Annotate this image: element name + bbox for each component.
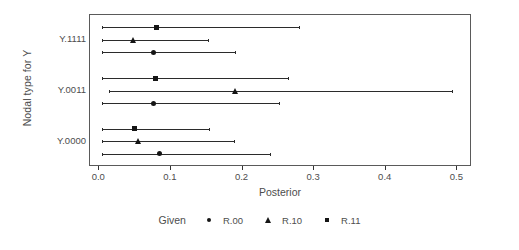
interval-lower-cap — [102, 26, 103, 29]
interval-upper-cap — [209, 128, 210, 131]
legend-item-r-10[interactable]: R.10 — [259, 214, 302, 226]
x-axis-tick-label: 0.5 — [436, 171, 476, 182]
x-axis-ticks: 0.00.10.20.30.40.5 — [89, 166, 471, 186]
credible-interval-line — [109, 91, 453, 92]
interval-row — [90, 35, 470, 46]
credible-interval-line — [102, 141, 235, 142]
interval-upper-cap — [235, 51, 236, 54]
x-axis-tick-label: 0.4 — [365, 171, 405, 182]
credible-interval-line — [102, 78, 289, 79]
legend-item-r-11[interactable]: R.11 — [318, 214, 360, 226]
legend: Given R.00R.10R.11 — [0, 214, 519, 226]
square-marker-icon — [132, 126, 137, 131]
x-axis-tick-mark — [313, 166, 314, 170]
circle-marker-icon — [200, 214, 218, 226]
x-axis-tick-mark — [385, 166, 386, 170]
y-axis-tick-label: Y.0011 — [32, 84, 86, 95]
square-marker-icon — [154, 25, 159, 30]
plot-panel — [89, 14, 471, 166]
interval-row — [90, 86, 470, 97]
x-axis-tick-label: 0.1 — [150, 171, 190, 182]
square-marker-icon — [153, 76, 158, 81]
legend-item-label: R.11 — [341, 215, 360, 226]
circle-marker-icon — [151, 50, 156, 55]
credible-interval-line — [102, 40, 209, 41]
legend-item-label: R.10 — [282, 215, 302, 226]
y-axis-tick-labels: Y.1111Y.0011Y.0000 — [32, 0, 86, 250]
interval-lower-cap — [102, 77, 103, 80]
interval-lower-cap — [102, 140, 103, 143]
credible-interval-line — [102, 52, 236, 53]
interval-row — [90, 149, 470, 160]
circle-marker-icon — [157, 151, 162, 156]
interval-lower-cap — [102, 39, 103, 42]
credible-interval-line — [102, 27, 300, 28]
interval-lower-cap — [109, 90, 110, 93]
x-axis-tick-mark — [456, 166, 457, 170]
square-marker-icon — [318, 214, 336, 226]
credible-interval-line — [102, 103, 280, 104]
interval-row — [90, 124, 470, 135]
legend-item-r-00[interactable]: R.00 — [200, 214, 243, 226]
legend-title: Given — [159, 214, 186, 226]
interval-upper-cap — [208, 39, 209, 42]
interval-upper-cap — [288, 77, 289, 80]
triangle-marker-icon — [259, 214, 277, 226]
interval-upper-cap — [234, 140, 235, 143]
credible-interval-line — [102, 129, 210, 130]
posterior-forest-plot: Nodal type for Y Y.1111Y.0011Y.0000 0.00… — [0, 0, 519, 250]
interval-upper-cap — [270, 153, 271, 156]
x-axis-tick-label: 0.0 — [78, 171, 118, 182]
interval-row — [90, 22, 470, 33]
interval-upper-cap — [279, 102, 280, 105]
x-axis-tick-mark — [242, 166, 243, 170]
interval-row — [90, 47, 470, 58]
interval-lower-cap — [102, 128, 103, 131]
y-axis-tick-label: Y.1111 — [32, 33, 86, 44]
interval-row — [90, 136, 470, 147]
interval-lower-cap — [102, 153, 103, 156]
interval-lower-cap — [102, 102, 103, 105]
legend-item-label: R.00 — [223, 215, 243, 226]
credible-interval-line — [102, 154, 271, 155]
y-axis-tick-label: Y.0000 — [32, 135, 86, 146]
triangle-marker-icon — [135, 138, 141, 144]
x-axis-tick-mark — [98, 166, 99, 170]
interval-row — [90, 98, 470, 109]
interval-upper-cap — [299, 26, 300, 29]
triangle-marker-icon — [232, 88, 238, 94]
x-axis-tick-label: 0.3 — [293, 171, 333, 182]
x-axis-title: Posterior — [89, 186, 471, 198]
triangle-marker-icon — [130, 37, 136, 43]
x-axis-tick-label: 0.2 — [222, 171, 262, 182]
plot-area — [90, 15, 470, 165]
x-axis-tick-mark — [170, 166, 171, 170]
interval-row — [90, 73, 470, 84]
interval-upper-cap — [452, 90, 453, 93]
interval-lower-cap — [102, 51, 103, 54]
circle-marker-icon — [151, 101, 156, 106]
